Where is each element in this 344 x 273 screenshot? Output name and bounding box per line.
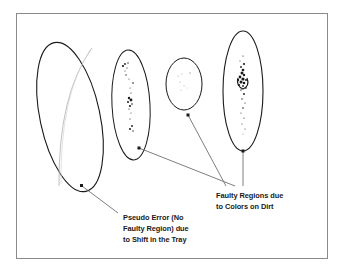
- defect-speckle: [127, 101, 129, 103]
- defect-speckle: [177, 75, 178, 76]
- annotation-pseudo-error: Pseudo Error (No Faulty Region) due to S…: [123, 213, 189, 244]
- anchor-dot-pseudo-error: [80, 184, 83, 187]
- defect-speckle: [129, 79, 130, 80]
- defect-speckle: [124, 63, 126, 65]
- defect-speckle: [131, 113, 132, 114]
- defect-speckle: [127, 62, 128, 63]
- defect-speckle: [130, 88, 131, 89]
- defect-speckle: [245, 129, 246, 130]
- defect-speckle: [189, 72, 190, 73]
- defect-speckle: [241, 98, 242, 99]
- defect-speckle: [241, 113, 242, 114]
- defect-speckle: [131, 103, 133, 105]
- defect-speckle: [240, 66, 242, 68]
- defect-speckle: [243, 74, 245, 76]
- defect-speckle: [122, 65, 124, 67]
- defect-speckle: [241, 72, 244, 75]
- defect-speckle: [125, 74, 126, 75]
- anchor-dot-third-ellipse: [187, 114, 190, 117]
- anchor-dot-fourth-ellipse: [242, 150, 245, 153]
- defect-speckle: [129, 105, 131, 107]
- defect-speckle: [244, 102, 245, 103]
- defect-speckle: [242, 124, 243, 125]
- defect-speckle: [242, 85, 244, 87]
- defect-speckle: [128, 108, 129, 109]
- defect-speckle: [181, 90, 182, 91]
- pseudo-error-line-3: to Shift in the Tray: [123, 235, 187, 244]
- faulty-regions-line-1: Faulty Regions due: [216, 191, 283, 200]
- defect-speckle: [128, 97, 130, 99]
- defect-speckle: [129, 128, 131, 130]
- defect-speckle: [240, 89, 241, 90]
- defect-speckle: [241, 77, 244, 80]
- defect-speckle: [130, 92, 131, 93]
- anchor-dot-second-ellipse: [138, 147, 141, 150]
- defect-speckle: [132, 82, 134, 84]
- defect-speckle: [131, 125, 133, 127]
- defect-speckle: [239, 76, 242, 79]
- defect-speckle: [240, 61, 241, 62]
- defect-speckle: [243, 117, 244, 118]
- defect-speckle: [242, 107, 244, 109]
- pseudo-error-line-1: Pseudo Error (No: [123, 213, 184, 222]
- defect-speckle: [243, 63, 245, 65]
- defect-speckle: [129, 118, 130, 119]
- defect-speckle: [184, 86, 185, 87]
- pseudo-error-line-2: Faulty Region) due: [123, 224, 189, 233]
- defect-speckle: [243, 82, 246, 85]
- defect-speckle: [245, 79, 247, 81]
- figure-root: Pseudo Error (No Faulty Region) due to S…: [0, 0, 344, 273]
- defect-speckle: [130, 99, 133, 102]
- defect-speckle: [242, 55, 243, 56]
- faulty-regions-line-2: to Colors on Dirt: [216, 202, 274, 211]
- defect-speckle: [179, 81, 180, 82]
- defect-speckle: [187, 88, 188, 89]
- defect-speckle: [125, 71, 126, 72]
- defect-speckle: [240, 81, 243, 84]
- defect-speckle: [243, 134, 244, 135]
- defect-speckle: [126, 67, 127, 68]
- defect-speckle: [182, 74, 183, 75]
- defect-speckle: [132, 130, 133, 131]
- defect-speckle: [242, 69, 245, 72]
- defect-speckle: [243, 93, 245, 95]
- diagram-canvas: Pseudo Error (No Faulty Region) due to S…: [0, 0, 344, 273]
